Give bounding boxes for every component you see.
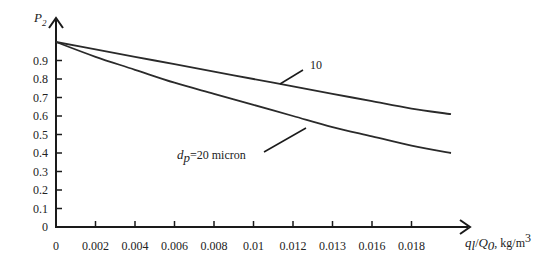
x-axis-unit-sup: 3 — [525, 231, 531, 245]
y-tick-label: 0.7 — [33, 91, 48, 105]
y-tick-label: 0.1 — [33, 202, 48, 216]
annotation-dp: dp=20 micron — [177, 147, 246, 165]
x-tick-label: 0.01 — [243, 239, 264, 253]
y-tick-label: 0.3 — [33, 165, 48, 179]
x-tick-label: 0 — [53, 239, 59, 253]
x-axis-unit: , kg/m — [494, 236, 525, 250]
x-tick-label: 0.004 — [122, 239, 149, 253]
series-line-dp-20-micron — [56, 42, 451, 153]
line-chart: 00.10.20.30.40.50.60.70.80.9 00.0020.004… — [0, 0, 536, 271]
y-tick-label: 0.2 — [33, 183, 48, 197]
x-tick-label: 0.002 — [82, 239, 109, 253]
y-axis-title: P2 — [33, 10, 47, 28]
x-tick-label: 0.018 — [398, 239, 425, 253]
y-axis-title-sub: 2 — [42, 18, 47, 28]
x-axis-title: ql/Q0, kg/m3 — [465, 231, 531, 253]
annotation-dp-rest: =20 micron — [190, 148, 246, 162]
y-ticks: 00.10.20.30.40.50.60.70.80.9 — [33, 54, 62, 235]
annotation-10-leader — [280, 70, 303, 84]
x-tick-label: 0.016 — [359, 239, 386, 253]
series-line-10 — [56, 42, 451, 114]
y-tick-label: 0.6 — [33, 109, 48, 123]
annotation-dp-leader — [264, 128, 306, 152]
x-tick-label: 0.006 — [161, 239, 188, 253]
y-tick-label: 0.8 — [33, 72, 48, 86]
annotation-10: 10 — [310, 58, 322, 72]
axes — [49, 18, 470, 234]
y-tick-label: 0 — [42, 220, 48, 234]
x-ticks: 00.0020.0040.0060.0080.010.0120.0130.016… — [53, 221, 425, 253]
x-tick-label: 0.008 — [201, 239, 228, 253]
series-lines — [56, 42, 451, 153]
y-tick-label: 0.4 — [33, 146, 48, 160]
y-axis-title-main: P — [33, 10, 42, 25]
y-tick-label: 0.9 — [33, 54, 48, 68]
x-tick-label: 0.012 — [280, 239, 307, 253]
x-tick-label: 0.013 — [319, 239, 346, 253]
y-tick-label: 0.5 — [33, 128, 48, 142]
